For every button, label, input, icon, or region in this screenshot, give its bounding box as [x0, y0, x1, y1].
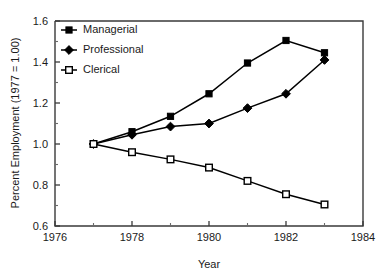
data-point — [167, 113, 173, 119]
y-axis-tick-labels: 0.60.81.01.21.41.6 — [33, 15, 48, 232]
x-axis-title: Year — [198, 258, 221, 270]
legend-label: Clerical — [83, 63, 120, 75]
series-line-professional — [94, 60, 325, 144]
legend-label: Managerial — [83, 23, 137, 35]
data-point — [244, 60, 250, 66]
data-point — [206, 91, 212, 97]
legend-item-managerial: Managerial — [61, 23, 137, 35]
y-axis-title: Percent Employment (1977 = 1.00) — [9, 38, 21, 209]
data-point — [244, 178, 251, 185]
x-tick-label: 1978 — [120, 231, 144, 243]
data-point — [321, 201, 328, 208]
data-point — [129, 149, 136, 156]
data-point — [167, 156, 174, 163]
y-tick-label: 1.6 — [33, 15, 48, 27]
legend-marker — [66, 67, 73, 74]
x-axis-ticks — [55, 221, 363, 226]
legend-item-professional: Professional — [61, 43, 144, 55]
data-point — [166, 122, 175, 131]
figure-container: 0.60.81.01.21.41.6 19761978198019821984 … — [0, 0, 388, 276]
data-point — [283, 37, 289, 43]
x-axis-tick-labels: 19761978198019821984 — [43, 231, 375, 243]
line-chart: 0.60.81.01.21.41.6 19761978198019821984 … — [0, 0, 388, 276]
data-point — [90, 141, 97, 148]
legend-marker — [66, 27, 72, 33]
series-clerical — [90, 141, 328, 208]
x-tick-label: 1984 — [351, 231, 375, 243]
y-tick-label: 1.4 — [33, 56, 48, 68]
y-tick-label: 1.0 — [33, 138, 48, 150]
x-tick-label: 1982 — [274, 231, 298, 243]
legend-item-clerical: Clerical — [61, 63, 120, 75]
legend-label: Professional — [83, 43, 144, 55]
y-tick-label: 0.8 — [33, 179, 48, 191]
data-point — [283, 191, 290, 198]
y-axis-ticks — [55, 21, 60, 226]
data-point — [206, 164, 213, 171]
legend-marker — [65, 46, 74, 55]
x-tick-label: 1980 — [197, 231, 221, 243]
y-tick-label: 1.2 — [33, 97, 48, 109]
x-tick-label: 1976 — [43, 231, 67, 243]
data-series-layer — [89, 37, 329, 207]
chart-legend: ManagerialProfessionalClerical — [61, 23, 144, 75]
data-point — [205, 119, 214, 128]
data-point — [243, 104, 252, 113]
